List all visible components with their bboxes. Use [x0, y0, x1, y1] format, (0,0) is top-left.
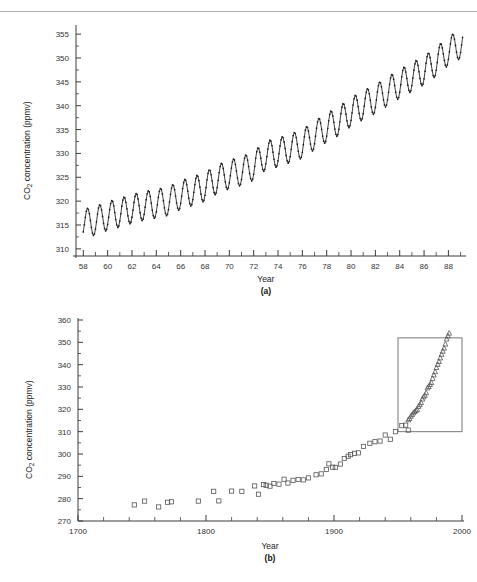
panel-a-data-point	[305, 129, 307, 131]
panel-a-data-point	[295, 137, 297, 139]
panel-a-data-point	[349, 125, 351, 127]
panel-a-data-point	[346, 120, 348, 122]
panel-a-data-point	[309, 137, 311, 139]
panel-a-data-point	[314, 143, 316, 145]
panel-a-data-point	[406, 78, 408, 80]
panel-a-data-point	[386, 104, 388, 106]
panel-a-data-point	[100, 205, 102, 207]
panel-b-mauna-loa-marker	[431, 372, 436, 377]
panel-b-y-tick-label: 290	[58, 472, 72, 481]
panel-a-data-point	[234, 159, 236, 161]
panel-a-data-point	[125, 201, 127, 203]
panel-a-data-point	[299, 158, 301, 160]
panel-a-data-point	[437, 53, 439, 55]
panel-a-data-point	[105, 230, 107, 232]
panel-a-data-point	[189, 203, 191, 205]
panel-b-x-tick-label: 1800	[197, 527, 215, 536]
panel-a-data-point	[454, 38, 456, 40]
panel-b-mauna-loa-marker	[443, 341, 448, 346]
panel-a-data-point	[212, 187, 214, 189]
panel-a-data-point	[83, 224, 85, 226]
panel-a-data-point	[289, 156, 291, 158]
panel-a-data-point	[365, 91, 367, 93]
panel-a-data-point	[96, 221, 98, 223]
panel-a-data-point	[170, 193, 172, 195]
panel-a-x-tick-label: 76	[298, 262, 307, 271]
panel-a-data-point	[253, 173, 255, 175]
panel-a-data-point	[448, 58, 450, 60]
panel-a-data-point	[108, 216, 110, 218]
panel-a-data-point	[126, 208, 128, 210]
panel-a-data-point	[209, 170, 211, 172]
panel-a-data-point	[339, 121, 341, 123]
panel-a-data-point	[279, 145, 281, 147]
panel-a-data-point	[337, 134, 339, 136]
panel-b-ice-core-marker	[240, 489, 244, 493]
panel-a-data-point	[182, 188, 184, 190]
panel-a-data-point	[248, 166, 250, 168]
panel-a-data-point	[246, 155, 248, 157]
panel-a-data-point	[338, 129, 340, 131]
panel-a-data-point	[336, 135, 338, 137]
panel-b-ice-core-marker	[361, 444, 365, 448]
panel-a-data-point	[312, 150, 314, 152]
panel-a-data-point	[297, 150, 299, 152]
panel-a-data-point	[190, 205, 192, 207]
panel-a-data-point	[370, 106, 372, 108]
panel-a-data-point	[383, 99, 385, 101]
panel-a-data-point	[156, 204, 158, 206]
panel-b-ice-core-marker	[212, 489, 216, 493]
panel-a-data-point	[405, 71, 407, 73]
panel-a-data-point	[214, 194, 216, 196]
panel-a-data-point	[235, 163, 237, 165]
panel-a-data-point	[174, 189, 176, 191]
panel-a-data-point	[434, 75, 436, 77]
panel-a-data-point	[232, 161, 234, 163]
panel-a-x-tick-label: 84	[395, 262, 404, 271]
panel-b-ice-core-marker	[230, 489, 234, 493]
panel-a-data-point	[458, 59, 460, 61]
panel-a-data-point	[368, 93, 370, 95]
panel-a-data-point	[395, 91, 397, 93]
panel-a-data-point	[345, 113, 347, 115]
panel-b-ice-core-marker	[157, 505, 161, 509]
panel-a-data-point	[308, 130, 310, 132]
panel-a-data-point	[310, 143, 312, 145]
panel-a-data-point	[416, 60, 418, 62]
panel-a-data-point	[355, 95, 357, 97]
panel-a-data-point	[421, 85, 423, 87]
panel-b-ice-core-marker	[306, 476, 310, 480]
panel-a-data-point	[164, 207, 166, 209]
panel-a-data-point	[327, 128, 329, 130]
panel-a-data-point	[136, 194, 138, 196]
panel-a-data-point	[385, 106, 387, 108]
panel-a-data-point	[114, 212, 116, 214]
panel-a-data-point	[441, 47, 443, 49]
panel-a-data-point	[413, 69, 415, 71]
panel-a-data-point	[432, 75, 434, 77]
panel-a-data-point	[334, 128, 336, 130]
panel-a-data-point	[205, 187, 207, 189]
panel-a-data-point	[168, 209, 170, 211]
panel-a-data-point	[347, 125, 349, 127]
panel-a-data-point	[148, 191, 150, 193]
panel-a-x-tick-label: 82	[371, 262, 380, 271]
panel-a-x-tick-label: 60	[103, 262, 112, 271]
panel-a-data-point	[377, 91, 379, 93]
panel-a-data-point	[408, 89, 410, 91]
panel-b-ice-core-marker	[378, 439, 382, 443]
panel-a-data-point	[397, 98, 399, 100]
panel-a-data-point	[320, 122, 322, 124]
panel-a-data-point	[144, 206, 146, 208]
panel-a-data-point	[115, 219, 117, 221]
panel-a-data-point	[263, 170, 265, 172]
panel-a-data-point	[198, 180, 200, 182]
panel-a-data-point	[362, 113, 364, 115]
panel-a-data-point	[256, 151, 258, 153]
panel-a-data-point	[127, 215, 129, 217]
panel-a-data-point	[356, 99, 358, 101]
panel-a-data-point	[407, 84, 409, 86]
panel-a-data-point	[180, 203, 182, 205]
panel-a-data-point	[270, 140, 272, 142]
panel-a-data-point	[82, 231, 84, 233]
